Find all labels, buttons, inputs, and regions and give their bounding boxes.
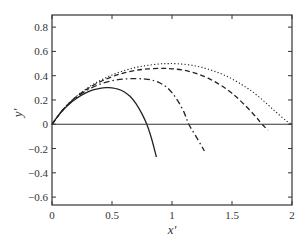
y-tick-label: 0.8 — [34, 21, 48, 33]
y-tick-label: 0.6 — [34, 45, 48, 57]
curve-dotted — [52, 64, 292, 125]
y-tick-label: 0.2 — [34, 94, 48, 106]
y-tick-label: 0.4 — [34, 70, 48, 82]
y-axis-label: y' — [10, 109, 25, 120]
x-tick-label: 1.5 — [225, 209, 239, 221]
y-tick-label: −0.6 — [28, 191, 48, 203]
curve-dash-dot — [52, 79, 204, 151]
plot-curves — [52, 64, 292, 157]
y-tick-label: 0 — [43, 118, 49, 130]
x-axis-label: x' — [167, 222, 177, 237]
y-tick-label: −0.2 — [28, 143, 48, 155]
plot-frame — [52, 15, 292, 205]
x-tick-label: 0 — [49, 209, 55, 221]
x-axis-ticks: 00.511.52 — [49, 15, 295, 221]
x-tick-label: 0.5 — [105, 209, 119, 221]
line-chart: 0.80.60.40.20−0.2−0.4−0.6 00.511.52 x' y… — [0, 0, 308, 240]
curve-dashed — [52, 68, 268, 130]
curve-solid — [52, 88, 156, 157]
x-tick-label: 1 — [169, 209, 175, 221]
y-tick-label: −0.4 — [28, 167, 48, 179]
x-tick-label: 2 — [289, 209, 295, 221]
